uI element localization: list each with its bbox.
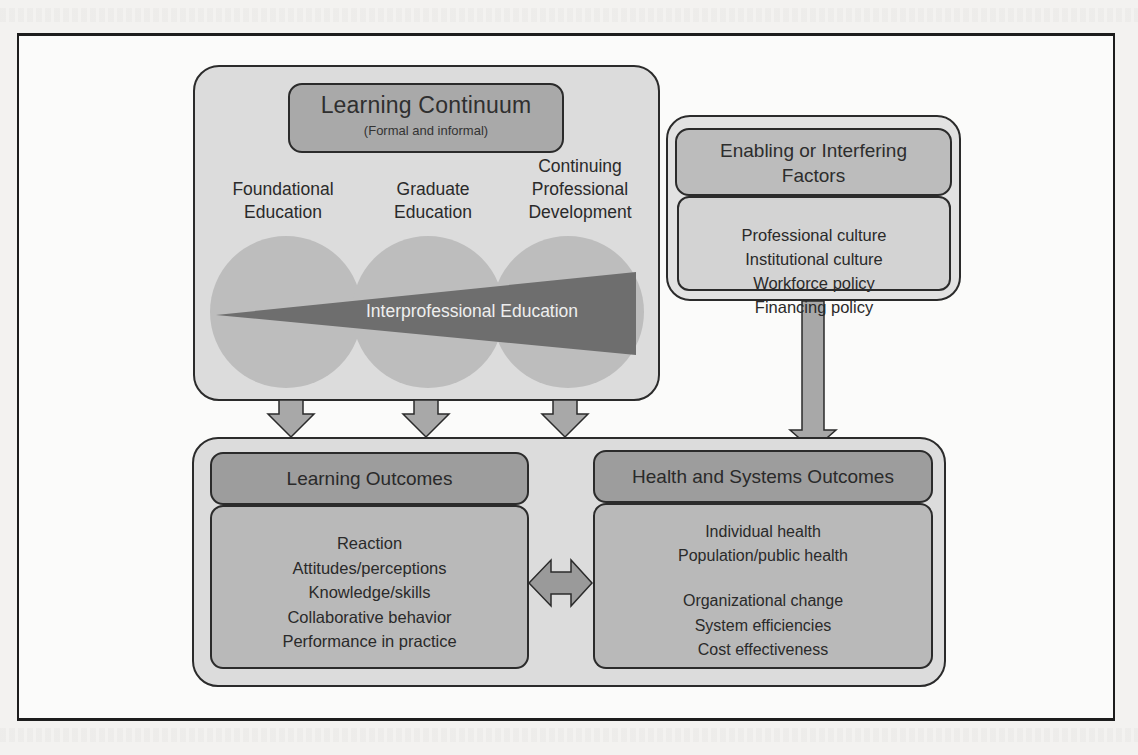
stage-label-line: Professional: [510, 178, 650, 201]
list-item: Collaborative behavior: [212, 605, 527, 630]
stage-graduate-education: Graduate Education: [378, 178, 488, 224]
stage-continuing-professional-development: Continuing Professional Development: [510, 155, 650, 224]
stage-foundational-education: Foundational Education: [218, 178, 348, 224]
enabling-factors-list: Professional culture Institutional cultu…: [677, 196, 951, 291]
list-item: Population/public health: [595, 544, 931, 568]
enabling-title-line: Factors: [677, 163, 950, 188]
list-item: Institutional culture: [679, 247, 949, 271]
list-item: Performance in practice: [212, 629, 527, 654]
list-item: Professional culture: [679, 223, 949, 247]
stage-label-line: Foundational: [218, 178, 348, 201]
background-text-line: [0, 8, 1138, 22]
list-item: Attitudes/perceptions: [212, 556, 527, 581]
stage-label-line: Graduate: [378, 178, 488, 201]
learning-outcomes-list: Reaction Attitudes/perceptions Knowledge…: [210, 505, 529, 669]
list-item: Individual health: [595, 520, 931, 544]
stage-label-line: Continuing: [510, 155, 650, 178]
list-item: Knowledge/skills: [212, 580, 527, 605]
interprofessional-education-label: Interprofessional Education: [366, 301, 596, 322]
learning-outcomes-title: Learning Outcomes: [210, 452, 529, 505]
page: Learning Continuum (Formal and informal)…: [0, 0, 1138, 755]
list-item: Financing policy: [679, 295, 949, 319]
enabling-factors-title: Enabling or Interfering Factors: [675, 128, 952, 196]
stage-label-line: Education: [218, 201, 348, 224]
continuum-title-text: Learning Continuum: [290, 92, 562, 119]
list-item: Organizational change: [595, 589, 931, 614]
enabling-title-line: Enabling or Interfering: [677, 138, 950, 163]
continuum-subtitle-text: (Formal and informal): [290, 123, 562, 138]
list-item: Reaction: [212, 531, 527, 556]
health-systems-outcomes-title: Health and Systems Outcomes: [593, 450, 933, 503]
health-outcomes-list: Individual health Population/public heal…: [593, 503, 933, 578]
list-item: System efficiencies: [595, 614, 931, 639]
systems-outcomes-list: Organizational change System efficiencie…: [593, 577, 933, 669]
stage-label-line: Education: [378, 201, 488, 224]
stage-label-line: Development: [510, 201, 650, 224]
background-text-line: [0, 728, 1138, 742]
list-item: Cost effectiveness: [595, 638, 931, 663]
list-item: Workforce policy: [679, 271, 949, 295]
learning-continuum-title: Learning Continuum (Formal and informal): [288, 83, 564, 153]
